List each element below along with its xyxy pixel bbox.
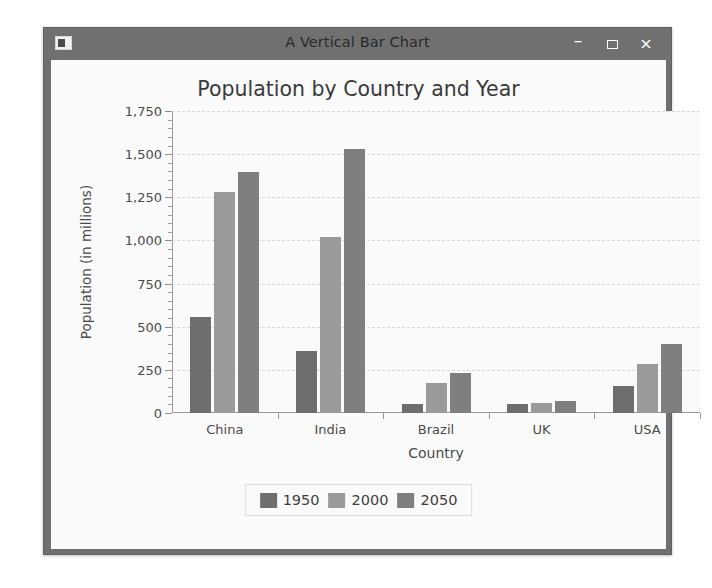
y-axis-tick-label: 1,250 (125, 190, 162, 205)
y-axis-tick-label: 500 (137, 319, 162, 334)
bar (190, 317, 211, 413)
y-axis-minor-tick (168, 120, 172, 121)
y-axis-tick-label: 1,750 (125, 104, 162, 119)
y-axis-minor-tick (168, 387, 172, 388)
y-axis-tick (165, 154, 172, 155)
bar (214, 192, 235, 413)
y-axis-minor-tick (168, 275, 172, 276)
x-axis-tick (383, 413, 384, 419)
y-axis-minor-tick (168, 266, 172, 267)
chart-legend: 195020002050 (245, 484, 473, 516)
y-axis-minor-tick (168, 396, 172, 397)
x-axis-tick-label: USA (634, 422, 661, 437)
y-axis-minor-tick (168, 344, 172, 345)
legend-label: 2050 (420, 492, 457, 508)
application-window: A Vertical Bar Chart – × Population by C… (43, 27, 672, 555)
bar-chart: Population by Country and Year Populatio… (51, 60, 666, 549)
bar (344, 149, 365, 413)
y-axis-minor-tick (168, 206, 172, 207)
maximize-square (607, 40, 618, 49)
y-axis-tick (165, 111, 172, 112)
legend-swatch (329, 493, 346, 508)
plot-area: 02505007501,0001,2501,5001,750ChinaIndia… (172, 111, 700, 413)
bar (637, 364, 658, 413)
x-axis-tick (594, 413, 595, 419)
y-axis-minor-tick (168, 128, 172, 129)
y-axis-minor-tick (168, 361, 172, 362)
y-axis-tick (165, 197, 172, 198)
y-axis-title-text: Population (in millions) (78, 185, 94, 339)
y-axis-minor-tick (168, 301, 172, 302)
gridline (172, 154, 700, 155)
gridline (172, 111, 700, 112)
y-axis-tick (165, 370, 172, 371)
x-axis-tick-label: UK (533, 422, 551, 437)
y-axis-tick-label: 1,500 (125, 147, 162, 162)
y-axis-minor-tick (168, 163, 172, 164)
screen: A Vertical Bar Chart – × Population by C… (0, 0, 712, 588)
legend-swatch (260, 493, 277, 508)
y-axis-minor-tick (168, 353, 172, 354)
bar (450, 373, 471, 413)
legend-label: 1950 (283, 492, 320, 508)
y-axis-minor-tick (168, 292, 172, 293)
x-axis-tick-label: China (206, 422, 243, 437)
bar (613, 386, 634, 413)
y-axis-tick-label: 1,000 (125, 233, 162, 248)
y-axis-minor-tick (168, 180, 172, 181)
y-axis-minor-tick (168, 171, 172, 172)
legend-item[interactable]: 1950 (260, 492, 320, 508)
x-axis-tick (489, 413, 490, 419)
bar (555, 401, 576, 413)
y-axis-title: Population (in millions) (77, 111, 95, 413)
legend-swatch (397, 493, 414, 508)
bar (531, 403, 552, 413)
y-axis-minor-tick (168, 215, 172, 216)
bar (661, 344, 682, 413)
window-controls: – × (561, 28, 667, 60)
x-axis-tick (278, 413, 279, 419)
y-axis-minor-tick (168, 232, 172, 233)
bar (507, 404, 528, 413)
y-axis-minor-tick (168, 146, 172, 147)
x-axis-title: Country (172, 445, 700, 461)
x-axis-tick-label: India (314, 422, 346, 437)
legend-item[interactable]: 2050 (397, 492, 457, 508)
y-axis-minor-tick (168, 223, 172, 224)
y-axis-minor-tick (168, 335, 172, 336)
y-axis-tick-label: 250 (137, 362, 162, 377)
y-axis-tick (165, 413, 172, 414)
bar (426, 383, 447, 413)
y-axis-minor-tick (168, 249, 172, 250)
bar (238, 172, 259, 413)
legend-item[interactable]: 2000 (329, 492, 389, 508)
bar (296, 351, 317, 413)
y-axis-minor-tick (168, 137, 172, 138)
minimize-icon[interactable]: – (561, 24, 595, 64)
y-axis-tick-label: 750 (137, 276, 162, 291)
y-axis-minor-tick (168, 404, 172, 405)
maximize-icon[interactable] (595, 28, 629, 60)
x-axis-tick (700, 413, 701, 419)
y-axis-tick (165, 327, 172, 328)
bar (320, 237, 341, 413)
y-axis-minor-tick (168, 258, 172, 259)
x-axis-tick-label: Brazil (418, 422, 454, 437)
close-icon[interactable]: × (629, 28, 663, 60)
window-title-bar[interactable]: A Vertical Bar Chart – × (44, 28, 671, 60)
legend-label: 2000 (352, 492, 389, 508)
chart-title: Population by Country and Year (51, 77, 666, 101)
y-axis-tick-label: 0 (154, 406, 162, 421)
y-axis-minor-tick (168, 309, 172, 310)
y-axis-line (172, 111, 173, 413)
y-axis-minor-tick (168, 318, 172, 319)
y-axis-minor-tick (168, 189, 172, 190)
bar (402, 404, 423, 413)
y-axis-minor-tick (168, 378, 172, 379)
y-axis-tick (165, 284, 172, 285)
y-axis-tick (165, 240, 172, 241)
window-client-area: Population by Country and Year Populatio… (51, 60, 666, 549)
